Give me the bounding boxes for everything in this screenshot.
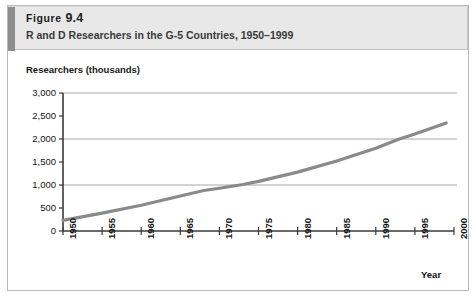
figure-label: Figure — [26, 12, 62, 24]
figure-subtitle: R and D Researchers in the G-5 Countries… — [26, 28, 456, 42]
chart-area: Researchers (thousands) 05001,0001,5002,… — [8, 51, 468, 290]
x-tick-label: 2000 — [458, 218, 469, 239]
x-tick-label: 1975 — [263, 218, 274, 239]
y-tick-label: 1,000 — [10, 179, 56, 190]
y-tick-label: 2,500 — [10, 110, 56, 121]
figure-title: Figure 9.4 — [26, 11, 456, 26]
x-tick-label: 1990 — [380, 218, 391, 239]
header-text: Figure 9.4 R and D Researchers in the G-… — [26, 11, 456, 42]
x-tick-label: 1980 — [302, 218, 313, 239]
y-tick-label: 1,500 — [10, 156, 56, 167]
x-tick-label: 1950 — [67, 218, 78, 239]
x-tick-label: 1955 — [106, 218, 117, 239]
x-tick-label: 1995 — [419, 218, 430, 239]
series-line-researchers — [63, 123, 446, 221]
line-chart-plot — [8, 51, 468, 290]
y-tick-label: 2,000 — [10, 133, 56, 144]
x-tick-label: 1960 — [145, 218, 156, 239]
x-tick-label: 1965 — [184, 218, 195, 239]
x-tick-label: 1985 — [341, 218, 352, 239]
y-tick-label: 0 — [10, 225, 56, 236]
figure-root: Figure 9.4 R and D Researchers in the G-… — [0, 0, 476, 301]
x-tick-label: 1970 — [223, 218, 234, 239]
y-tick-label: 500 — [10, 202, 56, 213]
y-tick-label: 3,000 — [10, 87, 56, 98]
x-axis-title: Year — [421, 269, 441, 280]
header-accent-bar — [8, 7, 15, 51]
figure-header: Figure 9.4 R and D Researchers in the G-… — [8, 6, 468, 50]
figure-number: 9.4 — [65, 11, 83, 25]
